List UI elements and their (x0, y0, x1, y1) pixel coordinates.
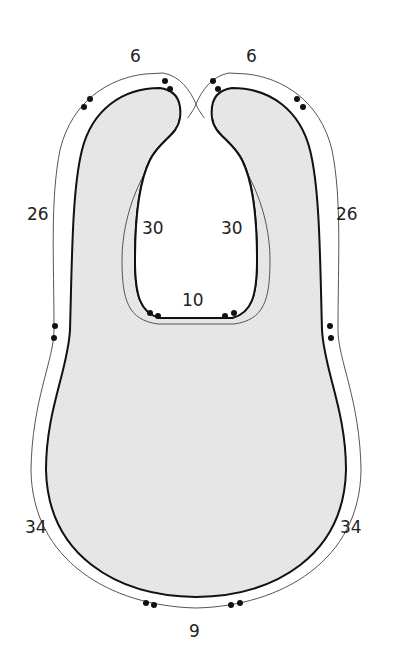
label-top-right: 6 (246, 46, 257, 66)
label-lower-right: 34 (340, 517, 362, 537)
label-top-left: 6 (130, 46, 141, 66)
bib-pattern-diagram: 6 6 26 26 30 30 10 34 34 9 (0, 0, 394, 671)
label-inner-left: 30 (142, 218, 164, 238)
label-neck-bottom: 10 (182, 290, 204, 310)
label-outer-right: 26 (336, 204, 358, 224)
label-outer-left: 26 (27, 204, 49, 224)
label-inner-right: 30 (221, 218, 243, 238)
label-bottom: 9 (189, 621, 200, 641)
label-lower-left: 34 (25, 517, 47, 537)
